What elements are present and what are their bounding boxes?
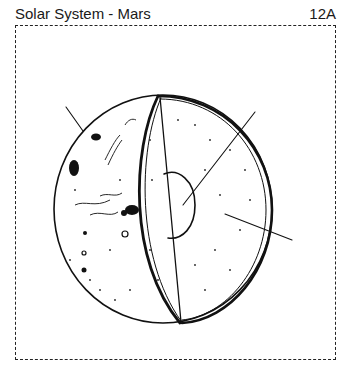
pointer-surface <box>66 107 83 131</box>
surface-features <box>69 134 139 273</box>
core-outline <box>164 172 195 238</box>
pointer-mantle <box>225 214 292 240</box>
speckle-dots <box>69 119 251 301</box>
pointer-core <box>183 112 255 205</box>
crust-edge-inner <box>160 99 266 320</box>
surface-texture <box>75 119 136 215</box>
mars-cutaway-diagram <box>0 0 348 376</box>
crust-edge <box>158 96 272 323</box>
